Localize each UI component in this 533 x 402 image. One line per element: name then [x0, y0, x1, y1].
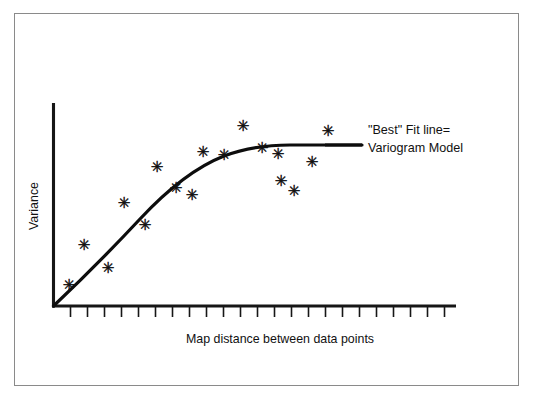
data-point-marker: ✳	[151, 158, 164, 176]
data-point-marker: ✳	[139, 216, 152, 234]
data-point-marker: ✳	[186, 186, 199, 204]
data-point-marker: ✳	[218, 146, 231, 164]
data-point-marker: ✳	[170, 179, 183, 197]
data-point-marker: ✳	[272, 145, 285, 163]
data-point-marker: ✳	[63, 276, 76, 294]
data-point-marker: ✳	[197, 143, 210, 161]
data-point-marker: ✳	[288, 182, 301, 200]
data-point-marker: ✳	[275, 172, 288, 190]
data-point-marker: ✳	[102, 259, 115, 277]
x-axis-label: Map distance between data points	[186, 332, 374, 346]
y-axis-label: Variance	[27, 182, 41, 230]
data-point-marker: ✳	[256, 139, 269, 157]
data-point-marker: ✳	[118, 194, 131, 212]
data-point-marker: ✳	[237, 117, 250, 135]
variogram-chart: ✳ ✳ ✳ ✳ ✳ ✳ ✳ ✳ ✳ ✳ ✳ ✳ ✳ ✳ ✳ ✳ ✳ Varian…	[0, 0, 533, 402]
data-point-marker: ✳	[306, 153, 319, 171]
legend-label-line2: Variogram Model	[368, 141, 463, 155]
data-point-marker: ✳	[78, 236, 91, 254]
x-axis-ticks	[71, 306, 445, 317]
legend-label-line1: "Best" Fit line=	[368, 123, 450, 137]
data-point-marker: ✳	[322, 122, 335, 140]
figure-canvas: ✳ ✳ ✳ ✳ ✳ ✳ ✳ ✳ ✳ ✳ ✳ ✳ ✳ ✳ ✳ ✳ ✳ Varian…	[0, 0, 533, 402]
